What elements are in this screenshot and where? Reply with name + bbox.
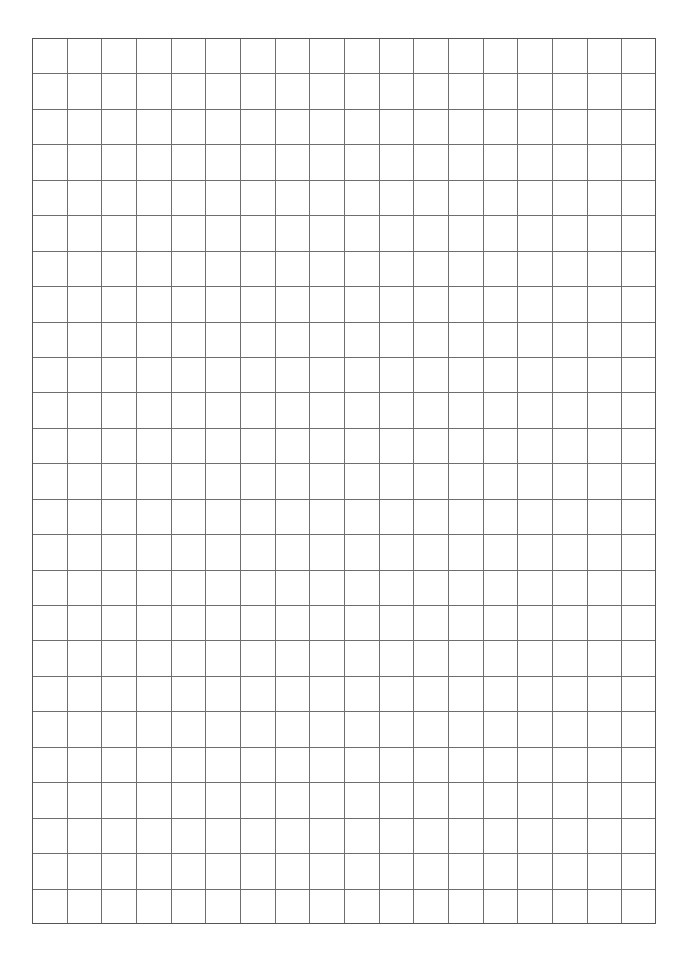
page-canvas	[0, 0, 693, 959]
graph-paper-grid[interactable]	[32, 38, 656, 924]
grid-lines-svg	[32, 38, 656, 924]
